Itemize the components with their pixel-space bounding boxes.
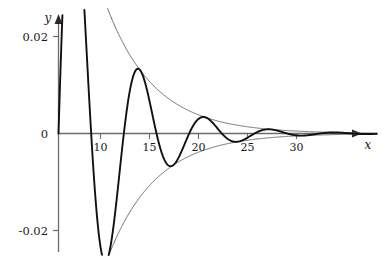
y-tick-label-top: 0.02 bbox=[22, 30, 48, 44]
y-tick-label-bottom: -0.02 bbox=[19, 224, 49, 238]
x-tick-label-30: 30 bbox=[290, 141, 304, 154]
plot-svg: 0.02 0 -0.02 10 15 20 25 30 x y bbox=[0, 0, 385, 261]
x-tick-label-25: 25 bbox=[241, 141, 255, 154]
x-axis-label: x bbox=[365, 138, 372, 152]
y-tick-label-zero: 0 bbox=[41, 127, 48, 141]
y-axis-label: y bbox=[44, 11, 52, 25]
x-tick-label-10: 10 bbox=[94, 141, 108, 154]
axis-group bbox=[55, 14, 362, 252]
x-tick-label-20: 20 bbox=[192, 141, 206, 154]
x-tick-label-15: 15 bbox=[143, 141, 157, 154]
damped-oscillation-curve bbox=[59, 10, 377, 255]
upper-envelope-curve bbox=[108, 8, 378, 133]
damped-oscillation-chart: 0.02 0 -0.02 10 15 20 25 30 x y bbox=[0, 0, 385, 261]
